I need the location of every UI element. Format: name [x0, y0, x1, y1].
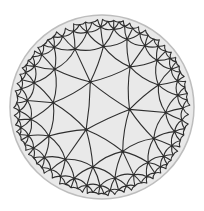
poincare-disk — [10, 15, 194, 199]
vertex-dot — [170, 58, 171, 59]
vertex-dot — [25, 72, 26, 73]
vertex-dot — [133, 174, 134, 175]
vertex-dot — [33, 82, 34, 83]
vertex-dot — [158, 46, 159, 47]
vertex-dot — [177, 81, 178, 82]
vertex-dot — [122, 150, 124, 152]
vertex-dot — [147, 176, 148, 177]
vertex-dot — [183, 108, 184, 109]
vertex-dot — [103, 46, 105, 48]
vertex-dot — [128, 108, 131, 111]
vertex-dot — [110, 190, 111, 191]
vertex-dot — [100, 186, 101, 187]
vertex-dot — [177, 95, 178, 96]
vertex-dot — [113, 29, 114, 30]
vertex-dot — [163, 156, 164, 157]
vertex-dot — [174, 131, 175, 132]
vertex-dot — [87, 31, 88, 32]
hyperbolic-tiling-figure — [0, 0, 204, 211]
vertex-dot — [19, 111, 20, 112]
vertex-dot — [172, 145, 173, 146]
vertex-dot — [44, 157, 45, 158]
vertex-dot — [41, 54, 42, 55]
vertex-dot — [52, 102, 54, 104]
vertex-dot — [60, 176, 61, 177]
vertex-dot — [85, 128, 88, 131]
vertex-dot — [144, 45, 145, 46]
vertex-dot — [86, 185, 87, 186]
vertex-dot — [50, 169, 51, 170]
vertex-dot — [153, 138, 155, 140]
vertex-dot — [20, 128, 21, 129]
vertex-dot — [182, 120, 183, 121]
vertex-dot — [100, 27, 101, 28]
vertex-dot — [74, 48, 76, 50]
vertex-dot — [48, 135, 50, 137]
vertex-dot — [30, 119, 31, 120]
vertex-dot — [126, 39, 127, 40]
vertex-dot — [124, 26, 125, 27]
vertex-dot — [65, 158, 67, 160]
vertex-dot — [165, 112, 167, 114]
vertex-dot — [54, 47, 55, 48]
vertex-dot — [74, 178, 75, 179]
vertex-dot — [54, 68, 56, 70]
vertex-dot — [21, 88, 22, 89]
vertex-dot — [73, 31, 74, 32]
vertex-dot — [27, 100, 28, 101]
vertex-dot — [28, 135, 29, 136]
vertex-dot — [157, 84, 159, 86]
vertex-dot — [114, 177, 115, 178]
vertex-dot — [156, 60, 157, 61]
vertex-dot — [34, 65, 35, 66]
vertex-dot — [89, 80, 92, 83]
vertex-dot — [171, 69, 172, 70]
vertex-dot — [92, 166, 94, 168]
vertex-dot — [126, 186, 127, 187]
vertex-dot — [160, 167, 161, 168]
vertex-dot — [33, 148, 34, 149]
vertex-dot — [62, 36, 63, 37]
vertex-dot — [140, 33, 141, 34]
vertex-dot — [129, 66, 131, 68]
vertex-dot — [147, 162, 148, 163]
